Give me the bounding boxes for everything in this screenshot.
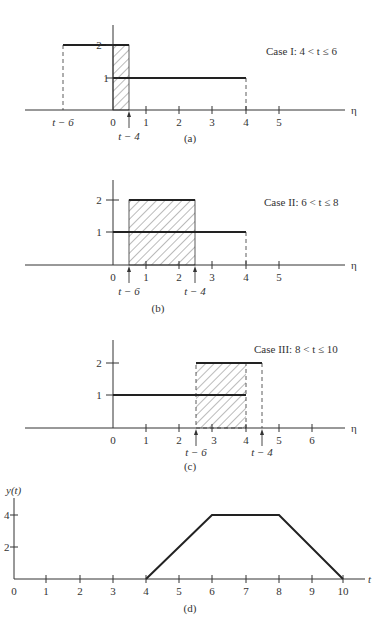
svg-text:η: η (351, 259, 357, 271)
x-axis-label: t (368, 573, 372, 585)
caption: (a) (184, 132, 197, 145)
svg-text:0: 0 (110, 116, 116, 128)
svg-text:2: 2 (176, 434, 182, 446)
caption: (d) (184, 602, 197, 615)
axis-label-eta: η (351, 104, 357, 116)
svg-text:5: 5 (276, 116, 282, 128)
y-tick-label: 2 (96, 39, 102, 51)
marker-t-6: t − 6 (118, 285, 140, 297)
figure: 2 1 0 1 2 3 4 5 t − 6 t − 4 η Case I: 4 … (0, 0, 381, 626)
svg-text:3: 3 (110, 585, 116, 597)
panel-a: 2 1 0 1 2 3 4 5 t − 6 t − 4 η Case I: 4 … (25, 25, 357, 145)
arrow-up-icon (127, 266, 131, 272)
marker-t-4: t − 4 (118, 130, 140, 142)
caption: (c) (184, 460, 197, 473)
svg-text:2: 2 (77, 585, 83, 597)
svg-text:0: 0 (110, 434, 116, 446)
svg-text:4: 4 (243, 271, 249, 283)
svg-text:2: 2 (176, 116, 182, 128)
svg-text:6: 6 (309, 434, 315, 446)
svg-text:4: 4 (243, 116, 249, 128)
svg-text:2: 2 (96, 357, 102, 369)
arrow-up-icon (193, 266, 197, 272)
panel-d: 4 2 y(t) 0 1 2 3 4 5 6 7 8 9 10 t (d) (4, 484, 372, 615)
marker-t-4: t − 4 (251, 446, 273, 458)
svg-text:1: 1 (43, 585, 49, 597)
svg-text:4: 4 (243, 434, 249, 446)
svg-text:1: 1 (96, 389, 102, 401)
y-tick-label: 1 (103, 72, 109, 84)
arrow-up-icon (194, 429, 198, 435)
svg-text:7: 7 (243, 585, 249, 597)
svg-text:4: 4 (4, 509, 10, 521)
svg-text:0: 0 (110, 271, 116, 283)
svg-text:6: 6 (209, 585, 215, 597)
svg-text:1: 1 (96, 226, 102, 238)
y-output-curve (146, 515, 343, 579)
svg-text:3: 3 (209, 271, 215, 283)
svg-text:3: 3 (211, 434, 217, 446)
marker-t-6: t − 6 (52, 116, 74, 128)
panel-b: 2 1 0 1 2 3 4 5 t − 6 t − 4 η Case II: 6… (25, 180, 357, 315)
svg-text:1: 1 (143, 271, 149, 283)
caption: (b) (152, 302, 165, 315)
svg-text:η: η (351, 422, 357, 434)
marker-t-4: t − 4 (184, 285, 206, 297)
case-label: Case III: 8 < t ≤ 10 (254, 343, 338, 355)
svg-text:5: 5 (276, 271, 282, 283)
svg-text:0: 0 (11, 585, 17, 597)
svg-text:3: 3 (209, 116, 215, 128)
svg-text:5: 5 (276, 434, 282, 446)
svg-text:1: 1 (143, 116, 149, 128)
y-axis-label: y(t) (5, 484, 22, 497)
svg-text:8: 8 (276, 585, 282, 597)
svg-text:10: 10 (338, 585, 350, 597)
svg-text:5: 5 (176, 585, 182, 597)
marker-t-6: t − 6 (185, 446, 207, 458)
case-label: Case I: 4 < t ≤ 6 (266, 45, 337, 57)
svg-text:2: 2 (176, 271, 182, 283)
svg-text:2: 2 (96, 194, 102, 206)
arrow-up-icon (260, 429, 264, 435)
svg-text:1: 1 (143, 434, 149, 446)
svg-text:4: 4 (143, 585, 149, 597)
arrow-up-icon (127, 111, 131, 117)
svg-text:9: 9 (309, 585, 315, 597)
svg-text:2: 2 (4, 541, 10, 553)
case-label: Case II: 6 < t ≤ 8 (264, 196, 339, 208)
panel-c: 2 1 0 1 2 3 4 5 6 t − 6 t − 4 η Case III… (25, 340, 357, 473)
